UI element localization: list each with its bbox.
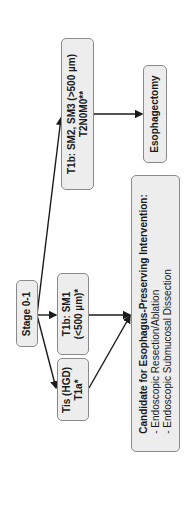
node-tis-line1: Tis (HGD): [61, 367, 73, 413]
node-stage-label: Stage 0-1: [21, 291, 33, 335]
node-t1b-sm1-line2: (<500 µm)*: [73, 289, 85, 340]
node-candidate: Candidate for Esophagus-Preserving Inter…: [131, 175, 180, 452]
node-esophagectomy-label: Esophagectomy: [149, 75, 161, 152]
node-candidate-item-1: - Endoscopic Resection/Ablation: [150, 194, 162, 433]
node-tis-text: Tis (HGD) T1a*: [61, 367, 85, 413]
node-t1b-sm1-text: T1b: SM1 (<500 µm)*: [61, 289, 85, 340]
node-tis-line2: T1a*: [73, 367, 85, 413]
node-t1b-sm2-line1: T1b: SM2, SM3 (>500 µm): [66, 54, 78, 174]
node-candidate-text: Candidate for Esophagus-Preserving Inter…: [138, 194, 174, 433]
node-t1b-sm2-line2: T2N0M0**: [78, 54, 90, 174]
node-t1b-sm1-line1: T1b: SM1: [61, 289, 73, 340]
node-candidate-title: Candidate for Esophagus-Preserving Inter…: [138, 194, 150, 433]
node-tis-hgd: Tis (HGD) T1a*: [57, 358, 89, 421]
node-t1b-sm2-sm3: T1b: SM2, SM3 (>500 µm) T2N0M0**: [61, 38, 94, 190]
node-t1b-sm2-text: T1b: SM2, SM3 (>500 µm) T2N0M0**: [66, 54, 90, 174]
node-esophagectomy: Esophagectomy: [143, 65, 167, 163]
node-stage-0-1: Stage 0-1: [16, 280, 38, 347]
node-candidate-item-2: - Endoscopic Submucosal Dissection: [162, 194, 174, 433]
node-t1b-sm1: T1b: SM1 (<500 µm)*: [57, 273, 89, 355]
